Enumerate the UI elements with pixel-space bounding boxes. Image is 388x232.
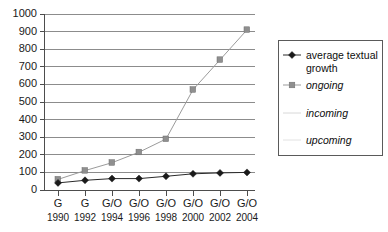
x-year-1998: 1998: [155, 212, 178, 223]
x-code-1996: G/O: [129, 197, 150, 209]
legend: average textual growth ongoing incoming …: [278, 40, 382, 155]
y-label-300: 300: [19, 130, 37, 142]
x-code-1998: G/O: [156, 197, 177, 209]
y-label-700: 700: [19, 60, 37, 72]
line-chart: 1000 900 800 700 600 500 400 300 200 100…: [0, 0, 388, 232]
legend-label-growth: growth: [306, 62, 338, 74]
chart-container: 1000 900 800 700 600 500 400 300 200 100…: [0, 0, 388, 232]
legend-marker-square-icon: [289, 82, 295, 88]
x-code-1994: G/O: [102, 197, 123, 209]
y-label-400: 400: [19, 113, 37, 125]
x-code-2002: G/O: [210, 197, 231, 209]
legend-label-incoming: incoming: [306, 107, 348, 119]
x-year-1990: 1990: [47, 212, 70, 223]
y-label-200: 200: [19, 148, 37, 160]
y-label-600: 600: [19, 77, 37, 89]
legend-label-average-textual: average textual: [306, 49, 378, 61]
y-label-800: 800: [19, 42, 37, 54]
legend-label-upcoming: upcoming: [306, 134, 352, 146]
y-label-500: 500: [19, 95, 37, 107]
x-year-1996: 1996: [128, 212, 151, 223]
x-year-2004: 2004: [236, 212, 259, 223]
legend-label-ongoing: ongoing: [306, 79, 344, 91]
x-code-1992: G: [81, 197, 90, 209]
x-year-2002: 2002: [209, 212, 232, 223]
y-label-100: 100: [19, 165, 37, 177]
x-code-1990: G: [54, 197, 63, 209]
y-label-0: 0: [31, 183, 37, 195]
x-axis-code-labels: G G G/O G/O G/O G/O G/O G/O: [54, 197, 258, 209]
x-year-2000: 2000: [182, 212, 205, 223]
x-year-1992: 1992: [74, 212, 97, 223]
y-label-1000: 1000: [13, 7, 37, 19]
x-code-2000: G/O: [183, 197, 204, 209]
x-year-1994: 1994: [101, 212, 124, 223]
x-code-2004: G/O: [237, 197, 258, 209]
y-label-900: 900: [19, 25, 37, 37]
